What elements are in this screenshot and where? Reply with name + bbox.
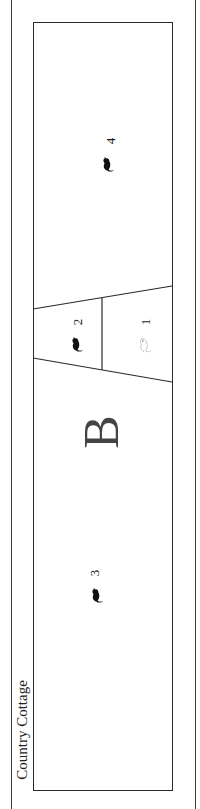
rodent-filled-icon bbox=[98, 156, 116, 172]
plan-title: Country Cottage bbox=[15, 680, 30, 780]
room-4-number: 4 bbox=[104, 138, 117, 145]
room-2-number: 2 bbox=[71, 319, 84, 326]
room-3-number: 3 bbox=[88, 570, 101, 577]
rodent-filled-icon bbox=[87, 587, 105, 603]
room-1-number: 1 bbox=[139, 319, 152, 326]
section-letter: B bbox=[76, 415, 126, 448]
room-partitions bbox=[0, 0, 200, 809]
rodent-outline-icon bbox=[135, 337, 153, 353]
rodent-filled-icon bbox=[67, 336, 85, 352]
